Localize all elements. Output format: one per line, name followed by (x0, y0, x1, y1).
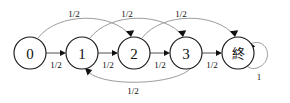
arc-2-to-end (142, 18, 238, 38)
edge-label-1-to-2: 1/2 (102, 60, 114, 70)
node-0-label: 0 (26, 46, 34, 62)
arc-label-2-to-end: 1/2 (175, 9, 187, 19)
arc-0-to-2 (38, 18, 134, 38)
arc-3-to-1 (85, 67, 192, 82)
edge-label-0-to-1: 1/2 (50, 60, 62, 70)
arc-2-to-end-arrowhead (230, 30, 238, 37)
diagram-canvas: 0 1 2 3 終 1/2 1/2 1/2 1/2 1/2 1/2 1/2 1/… (0, 0, 290, 103)
edge-1-to-2-arrowhead (112, 50, 118, 56)
edge-1-to-2 (98, 50, 118, 56)
edge-3-to-end (202, 50, 222, 56)
arc-1-to-3 (90, 18, 186, 38)
edge-label-3-to-end: 1/2 (206, 60, 218, 70)
edge-0-to-1-arrowhead (60, 50, 66, 56)
edge-3-to-end-arrowhead (216, 50, 222, 56)
edge-2-to-3 (150, 50, 170, 56)
self-loop-label: 1 (257, 72, 262, 82)
node-end-label: 終 (232, 46, 245, 61)
arc-label-1-to-3: 1/2 (121, 9, 133, 19)
edge-label-2-to-3: 1/2 (154, 60, 166, 70)
node-2-label: 2 (130, 46, 138, 62)
node-1-label: 1 (78, 46, 86, 62)
node-3-label: 3 (182, 46, 190, 62)
arc-label-0-to-2: 1/2 (68, 9, 80, 19)
arc-2-to-end-path (142, 18, 235, 38)
arc-label-3-to-1: 1/2 (127, 86, 139, 96)
arc-1-to-3-arrowhead (178, 30, 186, 37)
arc-0-to-2-arrowhead (126, 30, 134, 37)
edge-2-to-3-arrowhead (164, 50, 170, 56)
state-diagram: 0 1 2 3 終 1/2 1/2 1/2 1/2 1/2 1/2 1/2 1/… (0, 0, 290, 103)
edge-0-to-1 (46, 50, 66, 56)
